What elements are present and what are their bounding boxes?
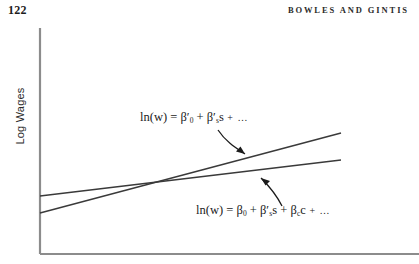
equation-upper-term2-symbol: β′ [207, 110, 216, 124]
y-axis-label: Log Wages [14, 78, 26, 154]
equation-lower-tail: + … [306, 205, 331, 216]
annotation-arrow-lower [261, 178, 282, 206]
chart-canvas [0, 18, 419, 264]
figure-wage-schooling-chart: Log Wages ln(w) = β′0 + β′ss + … ln(w) =… [0, 18, 419, 264]
annotation-arrow-upper [218, 130, 245, 154]
equation-lower-term1-symbol: β [236, 203, 242, 217]
equation-upper-plus1: + [193, 110, 206, 124]
page-number: 122 [8, 3, 27, 18]
document-page: 122 BOWLES AND GINTIS Log Wages ln(w) = … [0, 0, 419, 264]
equation-lower: ln(w) = β0 + β′ss + βcc + … [196, 204, 331, 218]
equation-lower-lhs: ln(w) = [196, 203, 236, 217]
equation-upper: ln(w) = β′0 + β′ss + … [140, 111, 248, 125]
equation-upper-lhs: ln(w) = [140, 110, 180, 124]
equation-lower-term2-symbol: β′ [260, 203, 269, 217]
regression-line-flat [40, 160, 341, 196]
equation-lower-term3-symbol: β [290, 203, 296, 217]
running-head: BOWLES AND GINTIS [288, 5, 409, 15]
equation-lower-plus1: + [247, 203, 260, 217]
equation-upper-term1-symbol: β′ [180, 110, 189, 124]
equation-lower-plus2: + [277, 203, 290, 217]
equation-upper-tail: + … [224, 112, 249, 123]
regression-line-steep [40, 133, 341, 213]
